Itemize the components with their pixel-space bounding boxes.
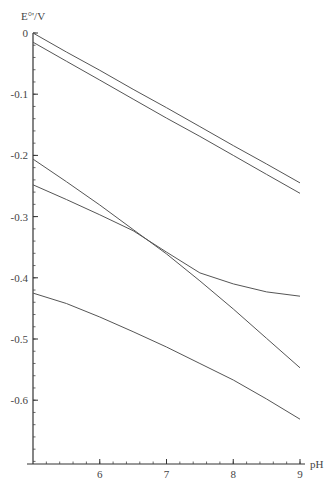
x-tick-label: 9 xyxy=(297,468,303,480)
curve-2-line xyxy=(33,42,300,193)
line-chart: E°'/V 0-0.1-0.2-0.3-0.4-0.5-0.6 6789 pH xyxy=(0,0,334,489)
series-group xyxy=(33,33,300,419)
y-tick-label: 0 xyxy=(23,27,29,39)
x-tick-label: 8 xyxy=(231,468,237,480)
x-tick-label: 6 xyxy=(97,468,103,480)
curve-3-line xyxy=(33,159,300,368)
y-tick-label: -0.2 xyxy=(11,149,28,161)
y-tick-label: -0.1 xyxy=(11,88,28,100)
x-axis-label: pH xyxy=(310,458,324,470)
y-tick-label: -0.3 xyxy=(11,211,29,223)
y-tick-label: -0.5 xyxy=(11,333,29,345)
curve-5-line xyxy=(33,293,300,419)
x-axis: 6789 xyxy=(27,459,305,480)
curve-4-line xyxy=(33,185,300,296)
y-axis-label: E°'/V xyxy=(21,10,45,22)
y-axis-title: E°'/V xyxy=(21,10,45,22)
x-tick-label: 7 xyxy=(164,468,170,480)
curve-1-line xyxy=(33,33,300,183)
y-tick-label: -0.6 xyxy=(11,394,29,406)
y-tick-label: -0.4 xyxy=(11,272,29,284)
y-axis: 0-0.1-0.2-0.3-0.4-0.5-0.6 xyxy=(11,27,38,464)
